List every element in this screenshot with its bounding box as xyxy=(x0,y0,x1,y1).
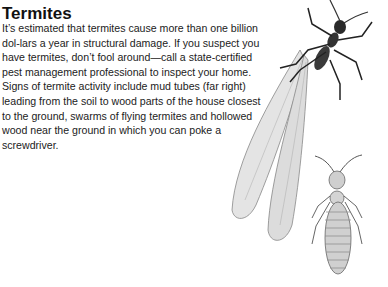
winged-termite-illustration-icon xyxy=(232,0,372,240)
worker-termite-illustration-icon xyxy=(312,155,362,274)
termite-illustrations xyxy=(200,0,388,287)
